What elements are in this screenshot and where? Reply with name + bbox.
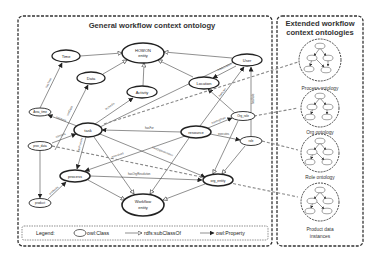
node-activity[interactable]: Activity [127, 86, 157, 98]
edge-location-howon [158, 60, 193, 77]
svg-text:product: product [35, 201, 45, 205]
svg-text:entity: entity [138, 205, 148, 210]
edge-process-workflow [88, 180, 125, 200]
node-org-role[interactable]: Org_role [231, 112, 255, 121]
svg-text:Data: Data [87, 76, 96, 81]
legend-subclass-label: rdfs:subClassOf [144, 230, 181, 236]
general-box-title: General workflow context ontology [89, 21, 216, 30]
svg-text:Workflow: Workflow [135, 199, 151, 204]
legend-property-label: owl:Property [216, 230, 245, 236]
edge-label-hasfor: hasFor [145, 126, 154, 130]
svg-text:role: role [248, 139, 253, 143]
ontology-diagram: General workflow context ontology Extend… [0, 0, 378, 262]
link-orgrole-org-ontology [254, 108, 298, 116]
svg-text:task: task [84, 128, 91, 133]
svg-text:resource: resource [188, 130, 204, 135]
svg-text:process: process [68, 174, 82, 179]
node-resource[interactable]: resource [181, 126, 211, 138]
node-process[interactable]: process [60, 170, 90, 182]
node-area-time[interactable]: Area_time [29, 108, 51, 116]
edge-label-hasorgresolution: hasOrgResolution [152, 145, 175, 157]
edge-data-howon [103, 60, 127, 74]
extended-box-title-line1: Extended workflow [285, 19, 354, 28]
edge-task-user [100, 60, 238, 127]
edge-label-isusedin: isUsedIn [104, 101, 116, 111]
legend-class-label: owl:Class [87, 230, 110, 236]
node-howon-entity[interactable]: HOWON entity [122, 43, 164, 63]
edge-label-hasarea: hasArea [56, 115, 68, 122]
svg-text:Org_role: Org_role [237, 114, 249, 118]
process-ontology[interactable] [299, 39, 341, 81]
link-role-role-ontology [262, 141, 298, 150]
edge-process-orgentity [90, 176, 202, 180]
edge-orgentity-workflow [163, 184, 205, 200]
node-workflow-entity[interactable]: Workflow entity [122, 194, 164, 216]
svg-text:Location: Location [196, 81, 211, 86]
node-proc-data[interactable]: proc_data [28, 142, 52, 151]
edge-activity-howon [143, 63, 144, 86]
product-data-label-line2: instances [310, 234, 331, 239]
org-ontology[interactable] [301, 89, 339, 127]
node-role[interactable]: role [240, 137, 262, 146]
edge-label-usedata: useData [65, 105, 73, 116]
edge-label-process-orgres: hasOrgResolution [128, 172, 151, 176]
svg-text:entity: entity [138, 53, 148, 58]
svg-text:org_entity: org_entity [211, 179, 226, 183]
legend-class-icon [74, 230, 86, 237]
edge-label-produces: produces [48, 185, 60, 196]
node-user[interactable]: User [232, 54, 262, 66]
product-data-label-line1: Product data [306, 227, 334, 232]
node-location[interactable]: Location [189, 77, 219, 89]
edge-resource-task [102, 130, 182, 132]
node-data[interactable]: Data [77, 72, 105, 84]
edge-label-contains: contains [55, 131, 67, 139]
edge-areatime-time [40, 63, 62, 108]
role-ontology-label: Role ontology [305, 175, 335, 180]
node-org-entity[interactable]: org_entity [203, 174, 233, 186]
extended-ontologies: Process ontology Org ontology [299, 39, 341, 239]
legend: Legend: owl:Class rdfs:subClassOf owl:Pr… [22, 226, 268, 240]
edge-time-howon [80, 53, 122, 56]
svg-text:Area_time: Area_time [33, 110, 47, 114]
node-time[interactable]: Time [52, 50, 80, 62]
edge-label-hasrole: hasRole [251, 93, 255, 104]
node-product[interactable]: product [29, 199, 51, 208]
edge-orgrole-orgentity [213, 121, 238, 174]
edge-role-orgentity [222, 146, 245, 174]
svg-text:HOWON: HOWON [135, 48, 151, 53]
link-procdata-product-instances [52, 146, 298, 197]
svg-text:Activity: Activity [136, 90, 149, 95]
edge-label-hastime: hasTime [44, 77, 53, 89]
edge-label-executes: executes [218, 132, 230, 136]
edge-user-howon [164, 52, 232, 58]
svg-text:Time: Time [62, 54, 72, 59]
edge-label-hasprocess: hasProcess [76, 137, 84, 153]
role-ontology[interactable] [301, 134, 339, 172]
svg-text:User: User [243, 58, 252, 63]
svg-text:proc_data: proc_data [33, 144, 47, 148]
extended-box-title-line2: context ontologies [286, 28, 354, 37]
legend-title: Legend: [36, 230, 55, 236]
node-task[interactable]: task [74, 123, 102, 137]
product-data-instances[interactable] [301, 183, 339, 221]
